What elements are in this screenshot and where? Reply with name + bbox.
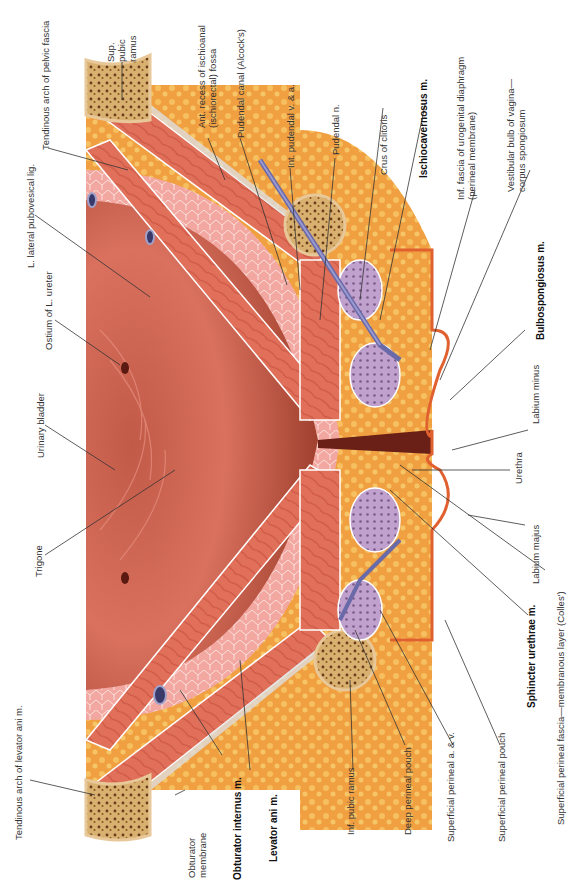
label-l-lateral-pubovesical-lig: L. lateral pubovesical lig.: [25, 164, 36, 268]
label-superficial-perineal-av: Superficial perineal a. & v.: [445, 732, 456, 842]
label-sup-pubic-ramus-2: pubic: [116, 36, 127, 62]
label-crus-of-clitoris: Crus of clitoris: [378, 115, 389, 175]
label-labium-majus: Labium majus: [530, 525, 541, 584]
label-labium-minus: Labium minus: [530, 365, 541, 424]
label-tendinous-arch-pelvic-fascia: Tendinous arch of pelvic fascia: [40, 21, 51, 150]
label-ant-recess-1: Ant. recess of ischioanal: [196, 25, 207, 128]
label-ostium-l-ureter: Ostium of L. ureter: [43, 271, 54, 350]
label-sup-pubic-ramus-1: Sup.: [105, 36, 116, 62]
label-inf-fascia-2: (perineal membrane): [466, 57, 477, 200]
sphincter-urethrae-lower: [300, 470, 340, 630]
ureter-ostium-left: [121, 362, 129, 374]
sup-pubic-ramus-upper: [86, 55, 150, 122]
label-tendinous-arch-levator-ani: Tendinous arch of levator ani m.: [13, 705, 24, 840]
label-obturator-membrane-2: membrane: [197, 833, 208, 878]
sphincter-urethrae-upper: [300, 260, 340, 420]
label-ischiocavernosus: Ischiocavernosus m.: [418, 79, 429, 178]
label-obturator-membrane-1: Obturator: [186, 833, 197, 878]
label-superficial-perineal-pouch: Superficial perineal pouch: [496, 733, 507, 842]
label-trigone: Trigone: [33, 545, 44, 577]
label-urethra: Urethra: [513, 452, 524, 484]
label-levator-ani: Levator ani m.: [268, 794, 279, 862]
label-int-pudendal-vessels: Int. pudendal v. & a.: [285, 84, 296, 168]
label-sup-pubic-ramus: Sup. pubic ramus: [105, 36, 138, 62]
ureter-ostium-right: [121, 572, 129, 584]
label-inf-fascia-1: Inf. fascia of urogenital diaphragm: [455, 57, 466, 200]
label-obturator-membrane: Obturator membrane: [186, 833, 208, 878]
label-deep-perineal-pouch: Deep perineal pouch: [402, 747, 413, 835]
label-pudendal-n: Pudendal n.: [330, 104, 341, 155]
label-sup-pubic-ramus-3: ramus: [127, 36, 138, 62]
label-urinary-bladder: Urinary bladder: [35, 393, 46, 458]
label-vestibular-bulb-1: Vestibular bulb of vagina—: [505, 79, 516, 192]
sup-pubic-ramus-lower: [86, 775, 150, 840]
vestibular-bulb-lower: [350, 488, 400, 552]
label-vestibular-bulb-2: corpus spongiosum: [516, 79, 527, 192]
label-ant-recess-2: (ischiorectal) fossa: [207, 25, 218, 128]
label-ant-recess-ischioanal-fossa: Ant. recess of ischioanal (ischiorectal)…: [196, 25, 218, 128]
label-bulbospongiosus: Bulbospongiosus m.: [535, 241, 546, 340]
label-pudendal-canal: Pudendal canal (Alcock's): [235, 29, 246, 138]
label-inf-fascia-urogenital-diaphragm: Inf. fascia of urogenital diaphragm (per…: [455, 57, 477, 200]
label-superficial-perineal-fascia: Superficial perineal fascia—membranous l…: [555, 591, 566, 825]
label-inf-pubic-ramus: Inf. pubic ramus: [345, 767, 356, 835]
label-sphincter-urethrae: Sphincter urethrae m.: [526, 605, 537, 708]
label-vestibular-bulb: Vestibular bulb of vagina— corpus spongi…: [505, 79, 527, 192]
label-obturator-internus: Obturator internus m.: [232, 777, 243, 880]
